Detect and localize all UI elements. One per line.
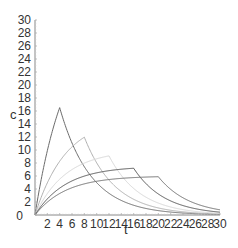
y-tick-label: 26 (18, 39, 32, 53)
y-tick-label: 2 (24, 195, 31, 209)
y-tick-label: 28 (18, 26, 32, 40)
plot-lines (35, 108, 220, 215)
x-axis-ticks: 24681012141618202224262830 (35, 213, 227, 231)
y-tick-label: 16 (18, 104, 32, 118)
x-tick-label: 4 (56, 217, 63, 231)
y-tick-label: 6 (24, 169, 31, 183)
chart: 024681012141618202224262830 246810121416… (0, 0, 238, 248)
y-tick-label: 30 (18, 13, 32, 27)
y-tick-label: 22 (18, 65, 32, 79)
series-line-t-12 (35, 156, 220, 215)
x-tick-label: 6 (69, 217, 76, 231)
x-tick-label: 30 (213, 217, 227, 231)
y-axis-label: c (10, 107, 17, 122)
y-tick-label: 10 (18, 143, 32, 157)
x-tick-label: 2 (44, 217, 51, 231)
x-tick-label: 8 (81, 217, 88, 231)
y-tick-label: 0 (16, 209, 23, 223)
y-tick-label: 8 (24, 156, 31, 170)
series-line-t-4 (35, 108, 220, 215)
y-axis-ticks: 024681012141618202224262830 (16, 13, 37, 223)
y-tick-label: 18 (18, 91, 32, 105)
y-tick-label: 12 (18, 130, 32, 144)
y-tick-label: 14 (18, 117, 32, 131)
y-tick-label: 24 (18, 52, 32, 66)
y-tick-label: 4 (24, 182, 31, 196)
x-axis-label: t (124, 222, 128, 237)
y-tick-label: 20 (18, 78, 32, 92)
